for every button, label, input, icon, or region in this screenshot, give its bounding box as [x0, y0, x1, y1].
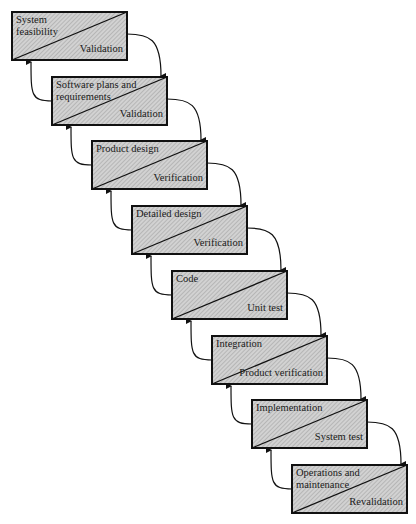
forward-arrow: [247, 228, 281, 270]
stage-check-label: Verification: [153, 172, 203, 184]
stage-title: Operations and: [296, 467, 360, 479]
forward-arrow: [287, 293, 321, 335]
feedback-arrow: [191, 321, 212, 360]
stage-check-label: Validation: [80, 43, 123, 55]
stage-title: Integration: [216, 338, 262, 350]
forward-arrow: [167, 99, 201, 140]
stage-title: Code: [176, 273, 198, 285]
feedback-arrow: [31, 62, 52, 101]
feedback-arrow: [231, 386, 252, 424]
stage-check-label: Product verification: [239, 367, 323, 379]
feedback-arrow: [271, 450, 292, 489]
forward-arrow: [207, 163, 241, 205]
stage-check-label: Revalidation: [349, 496, 403, 508]
stage-title: Product design: [96, 143, 159, 155]
stage-title: Detailed design: [136, 208, 202, 220]
stage-check-label: System test: [315, 431, 363, 443]
stage-check-label: Unit test: [247, 302, 283, 314]
stage-title: Implementation: [256, 402, 322, 414]
forward-arrow: [367, 422, 401, 464]
feedback-arrow: [111, 191, 132, 230]
forward-arrow: [127, 34, 161, 76]
stage-title: maintenance: [296, 479, 349, 491]
stage-title: System: [16, 14, 47, 26]
stage-title: feasibility: [16, 26, 58, 38]
feedback-arrow: [151, 256, 172, 295]
stage-check-label: Validation: [120, 108, 163, 120]
stage-title: requirements: [56, 91, 111, 103]
feedback-arrow: [71, 127, 92, 165]
forward-arrow: [327, 358, 361, 399]
stage-title: Software plans and: [56, 79, 136, 91]
stage-check-label: Verification: [193, 237, 243, 249]
